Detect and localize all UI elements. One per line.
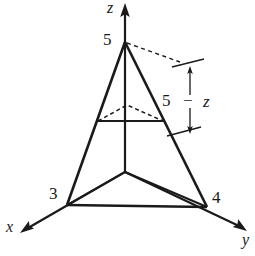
height-annotation-5: 5 (162, 92, 171, 109)
vertex-label-y-intercept: 4 (212, 189, 221, 206)
x-axis-arrowhead (20, 221, 34, 233)
edge-x-to-y (67, 205, 207, 207)
vertex-label-x-intercept: 3 (49, 185, 58, 202)
x-axis-label: x (6, 219, 13, 235)
height-annotation-z: z (203, 93, 210, 110)
edge-apex-to-x (67, 42, 125, 205)
height-annotation-minus: − (183, 92, 193, 109)
edge-origin-to-y (125, 172, 207, 207)
diagram-svg (0, 0, 255, 256)
cross-section-back-edges (98, 105, 163, 121)
vertex-label-z-intercept: 5 (103, 31, 112, 48)
figure-canvas: z x y 5 3 4 5 − z (0, 0, 255, 256)
edge-apex-to-y (125, 42, 207, 207)
annotation-lower-tick (167, 127, 201, 136)
cross-section-group (98, 105, 163, 121)
y-axis-label: y (242, 232, 249, 248)
z-axis-label: z (107, 0, 113, 16)
tetrahedron-edges (67, 42, 207, 207)
